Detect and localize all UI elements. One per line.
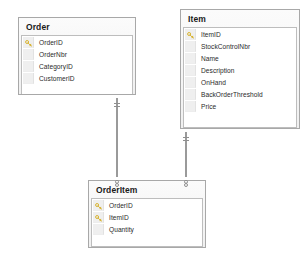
field-row[interactable]: Name: [184, 52, 296, 64]
field-row[interactable]: OrderID: [22, 36, 132, 48]
entity-table-order[interactable]: Order OrderIDOrderNbrCategoryIDCustomerI…: [18, 17, 136, 95]
entity-field-list-item: ItemIDStockControlNbrNameDescriptionOnHa…: [183, 27, 297, 128]
key-icon: [95, 213, 102, 220]
field-name: ItemID: [196, 30, 221, 39]
primary-key-gutter: [185, 29, 196, 40]
field-name: Quantity: [104, 225, 134, 234]
field-gutter: [185, 65, 196, 76]
key-icon: [95, 201, 102, 208]
field-name: OrderID: [34, 38, 63, 47]
relationship-item-to-orderitem[interactable]: [185, 129, 187, 180]
field-name: Description: [196, 66, 235, 75]
entity-table-item[interactable]: Item ItemIDStockControlNbrNameDescriptio…: [180, 9, 300, 129]
entity-field-list-order: OrderIDOrderNbrCategoryIDCustomerID: [21, 35, 133, 94]
field-name: OrderID: [104, 201, 133, 210]
field-name: CustomerID: [34, 74, 75, 83]
field-name: CategoryID: [34, 62, 73, 71]
key-icon: [25, 38, 32, 45]
entity-table-orderitem[interactable]: OrderItem OrderIDItemIDQuantity: [88, 180, 206, 248]
relationship-endpoint-many: [183, 173, 189, 180]
relationship-endpoint-many: [114, 173, 120, 180]
field-gutter: [23, 49, 34, 60]
field-row[interactable]: CustomerID: [22, 72, 132, 84]
field-name: OrderNbr: [34, 50, 67, 59]
field-row[interactable]: OnHand: [184, 76, 296, 88]
field-row[interactable]: Quantity: [92, 223, 202, 235]
field-row[interactable]: CategoryID: [22, 60, 132, 72]
relationship-order-to-orderitem[interactable]: [116, 95, 118, 180]
diagram-canvas: Order OrderIDOrderNbrCategoryIDCustomerI…: [0, 0, 308, 256]
field-name: OnHand: [196, 78, 226, 87]
field-gutter: [185, 89, 196, 100]
field-row[interactable]: StockControlNbr: [184, 40, 296, 52]
entity-title-order: Order: [21, 20, 133, 35]
field-row[interactable]: BackOrderThreshold: [184, 88, 296, 100]
field-name: BackOrderThreshold: [196, 90, 263, 99]
relationship-endpoint-one: [114, 95, 120, 102]
field-row[interactable]: Description: [184, 64, 296, 76]
primary-key-gutter: [93, 212, 104, 223]
field-row[interactable]: Price: [184, 100, 296, 112]
relationship-line: [116, 98, 118, 177]
field-row[interactable]: ItemID: [92, 211, 202, 223]
field-row[interactable]: ItemID: [184, 28, 296, 40]
field-gutter: [23, 73, 34, 84]
field-name: Price: [196, 102, 216, 111]
field-gutter: [23, 61, 34, 72]
key-icon: [187, 30, 194, 37]
field-name: StockControlNbr: [196, 42, 250, 51]
field-name: ItemID: [104, 213, 129, 222]
field-gutter: [93, 224, 104, 235]
field-gutter: [185, 101, 196, 112]
field-gutter: [185, 41, 196, 52]
field-list-empty-space: [22, 84, 132, 94]
primary-key-gutter: [93, 200, 104, 211]
field-row[interactable]: OrderNbr: [22, 48, 132, 60]
field-gutter: [185, 53, 196, 64]
field-row[interactable]: OrderID: [92, 199, 202, 211]
relationship-endpoint-one: [183, 129, 189, 136]
field-name: Name: [196, 54, 219, 63]
field-list-empty-space: [184, 112, 296, 125]
primary-key-gutter: [23, 37, 34, 48]
entity-title-item: Item: [183, 12, 297, 27]
entity-field-list-orderitem: OrderIDItemIDQuantity: [91, 198, 203, 247]
field-gutter: [185, 77, 196, 88]
field-list-empty-space: [92, 235, 202, 246]
